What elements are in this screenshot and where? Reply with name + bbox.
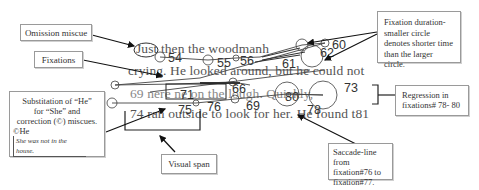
omission-circle: [134, 43, 158, 57]
substitution-callout: Substitation of “He” for “She” and corre…: [9, 91, 105, 157]
omission-miscue-callout: Omission miscue: [20, 24, 92, 41]
fixations-callout: Fixations: [34, 51, 83, 68]
regression-bracket: [372, 85, 378, 104]
regression-callout: Regression in fixations# 78- 80: [395, 85, 469, 116]
visual-span-callout: Visual span: [161, 154, 217, 174]
callout-arrows: [83, 32, 377, 152]
saccade-lines: [112, 43, 325, 103]
saccade-line-callout: Saccade-line from fixation#76 to fixatio…: [328, 143, 393, 180]
fixation-duration-callout: Fixation duration- smaller circle denote…: [377, 11, 461, 63]
substitution-example: She was not in the house.: [13, 136, 86, 157]
